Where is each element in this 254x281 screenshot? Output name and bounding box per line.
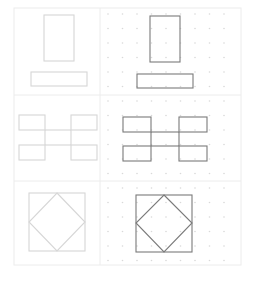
grid-dot: [209, 13, 211, 15]
grid-dot: [122, 57, 124, 59]
grid-dot: [122, 231, 124, 233]
grid-dot: [151, 28, 153, 30]
grid-dot: [107, 245, 109, 247]
grid-dot: [165, 115, 167, 117]
grid-dot: [165, 260, 167, 262]
grid-dot: [151, 13, 153, 15]
grid-dot: [165, 57, 167, 59]
grid-dot: [209, 158, 211, 160]
grid-dot: [209, 42, 211, 44]
grid-dot: [122, 86, 124, 88]
grid-dot: [165, 187, 167, 189]
grid-dot: [223, 86, 225, 88]
grid-dot: [165, 71, 167, 73]
grid-dot: [107, 86, 109, 88]
grid-dot: [223, 100, 225, 102]
grid-dot: [165, 245, 167, 247]
grid-dot: [122, 100, 124, 102]
grid-dot: [180, 216, 182, 218]
top-left-rect-and-bar-rect: [44, 15, 74, 61]
grid-dot: [136, 115, 138, 117]
grid-dot: [151, 187, 153, 189]
grid-dot: [209, 260, 211, 262]
grid-dot: [122, 42, 124, 44]
grid-dot: [122, 202, 124, 204]
grid-dot: [180, 202, 182, 204]
grid-dot: [194, 57, 196, 59]
grid-dot: [223, 260, 225, 262]
grid-border: [14, 8, 241, 265]
grid-dot: [165, 231, 167, 233]
grid-dot: [136, 173, 138, 175]
middle-right-h-shape-rect: [179, 117, 207, 132]
grid-dot: [165, 42, 167, 44]
grid-dot: [223, 28, 225, 30]
grid-dot: [209, 216, 211, 218]
grid-dot: [122, 245, 124, 247]
grid-dot: [165, 129, 167, 131]
grid-dot: [194, 187, 196, 189]
top-left-rect-and-bar-rect: [31, 72, 87, 86]
grid-dot: [136, 144, 138, 146]
grid-dot: [107, 144, 109, 146]
grid-dot: [223, 173, 225, 175]
grid-dot: [180, 115, 182, 117]
grid-dot: [180, 129, 182, 131]
grid-dot: [151, 42, 153, 44]
grid-dot: [194, 115, 196, 117]
grid-dot: [209, 28, 211, 30]
grid-dot: [223, 216, 225, 218]
grid-dot: [136, 28, 138, 30]
grid-dot: [223, 13, 225, 15]
middle-left-h-shape-rect: [71, 115, 97, 130]
grid-dot: [165, 86, 167, 88]
grid-dot: [180, 245, 182, 247]
grid-dot: [194, 158, 196, 160]
grid-dot: [107, 216, 109, 218]
grid-dot: [223, 187, 225, 189]
top-right-rect-and-bar-rect: [150, 16, 180, 62]
grid-dot: [194, 144, 196, 146]
grid-dot: [107, 28, 109, 30]
grid-dot: [122, 71, 124, 73]
grid-dot: [223, 57, 225, 59]
grid-dot: [151, 202, 153, 204]
grid-dot: [107, 129, 109, 131]
grid-dot: [122, 28, 124, 30]
grid-dot: [223, 115, 225, 117]
grid-dot: [165, 216, 167, 218]
grid-dot: [180, 173, 182, 175]
grid-dot: [107, 57, 109, 59]
grid-dot: [223, 245, 225, 247]
grid-dot: [209, 245, 211, 247]
grid-dot: [136, 100, 138, 102]
grid-dot: [151, 115, 153, 117]
grid-dot: [122, 13, 124, 15]
grid-dot: [194, 42, 196, 44]
grid-dot: [180, 144, 182, 146]
grid-dot: [180, 158, 182, 160]
grid-dot: [223, 202, 225, 204]
grid-dot: [165, 100, 167, 102]
bottom-right-square-diamond-rect: [136, 195, 192, 252]
grid-dot: [180, 260, 182, 262]
grid-dot: [151, 245, 153, 247]
grid-dot: [151, 57, 153, 59]
grid-dot: [194, 28, 196, 30]
grid-dot: [209, 86, 211, 88]
grid-dot: [194, 216, 196, 218]
grid-dot: [136, 187, 138, 189]
grid-dot: [165, 144, 167, 146]
grid-dot: [209, 187, 211, 189]
grid-dot: [194, 100, 196, 102]
grid-dot: [209, 202, 211, 204]
grid-dot: [136, 42, 138, 44]
grid-dot: [209, 115, 211, 117]
grid-dot: [209, 173, 211, 175]
grid-dot: [209, 231, 211, 233]
grid-dot: [194, 173, 196, 175]
grid-dot: [209, 57, 211, 59]
grid-dot: [223, 71, 225, 73]
grid-dot: [136, 260, 138, 262]
middle-left-h-shape-rect: [19, 115, 45, 130]
